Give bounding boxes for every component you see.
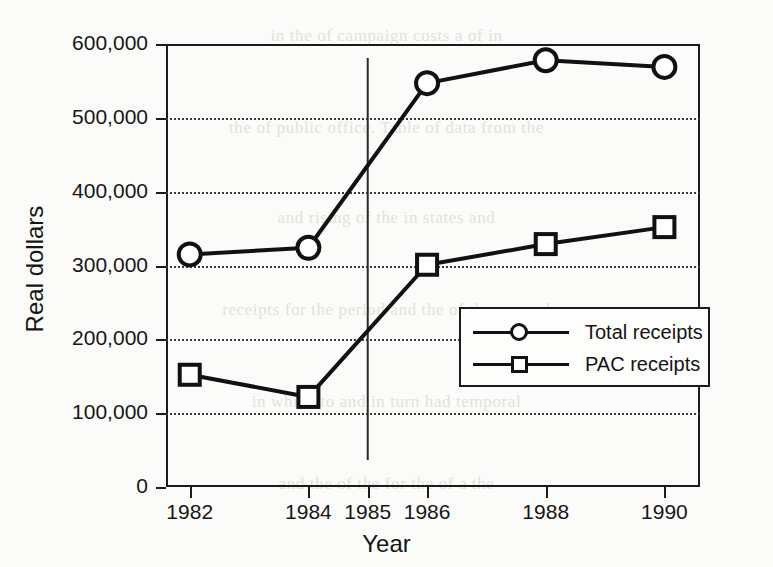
y-gridline [166, 192, 700, 194]
x-axis-tick-label: 1990 [641, 500, 688, 524]
x-axis-tick [368, 487, 370, 498]
legend-label: PAC receipts [585, 353, 700, 376]
x-axis-tick-label: 1986 [404, 500, 451, 524]
x-axis-tick-label: 1985 [344, 500, 391, 524]
y-axis-title: Real dollars [21, 149, 49, 389]
legend: Total receipts PAC receipts [459, 307, 710, 387]
y-gridline [166, 118, 700, 120]
x-axis-tick-label: 1988 [522, 500, 569, 524]
y-axis-tick [156, 487, 166, 489]
y-axis-tick [156, 413, 166, 415]
legend-item-pac-receipts[interactable]: PAC receipts [473, 348, 701, 380]
x-axis-tick [546, 487, 548, 498]
legend-label: Total receipts [585, 321, 703, 344]
y-axis-tick [156, 192, 166, 194]
y-axis-tick [156, 339, 166, 341]
y-axis-tick [156, 118, 166, 120]
x-axis-tick-label: 1982 [166, 500, 213, 524]
x-axis-tick [308, 487, 310, 498]
y-axis-tick-label: 0 [30, 474, 148, 498]
y-axis-tick [156, 266, 166, 268]
y-axis-tick [156, 44, 166, 46]
x-axis-tick [664, 487, 666, 498]
y-axis-tick-label: 600,000 [30, 31, 148, 55]
y-gridline [166, 413, 700, 415]
y-axis-tick-label: 100,000 [30, 400, 148, 424]
x-axis-tick [427, 487, 429, 498]
y-gridline [166, 266, 700, 268]
legend-circle-marker-icon [473, 319, 569, 345]
legend-square-marker-icon [473, 351, 569, 377]
legend-item-total-receipts[interactable]: Total receipts [473, 316, 701, 348]
x-axis-tick-label: 1984 [285, 500, 332, 524]
chart-figure: in the of campaign costs a of in the of … [0, 0, 773, 567]
y-axis-tick-label: 500,000 [30, 105, 148, 129]
x-axis-tick [190, 487, 192, 498]
x-axis-title: Year [0, 530, 773, 558]
